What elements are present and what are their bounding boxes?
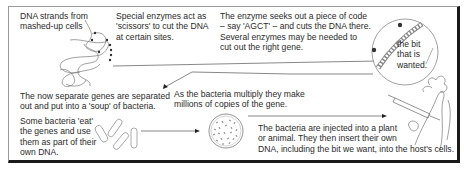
arrowhead-icon bbox=[382, 114, 387, 118]
label-bit-wanted: the bit that is wanted. bbox=[397, 39, 427, 70]
step-enzyme-seeks: The enzyme seeks out a piece of code – s… bbox=[220, 11, 371, 53]
step-genes-separated: The now separate genes are separated out… bbox=[20, 91, 170, 112]
step-bacteria-multiply: As the bacteria multiply they make milli… bbox=[174, 89, 305, 110]
step-dna-strands: DNA strands from mashed-up cells bbox=[20, 11, 88, 32]
petri-dish-illustration bbox=[209, 114, 243, 148]
step-enzymes-scissors: Special enzymes act as 'scissors' to cut… bbox=[116, 11, 209, 42]
arrow-to-soup bbox=[165, 72, 373, 87]
arrow-to-gene bbox=[113, 61, 380, 66]
enzyme-dots-icon bbox=[91, 32, 112, 61]
step-bacteria-injected: The bacteria are injected into a plant o… bbox=[258, 123, 454, 154]
bacteria-illustration bbox=[94, 118, 137, 151]
arrowhead-icon bbox=[163, 84, 168, 89]
arrowhead-icon bbox=[195, 129, 200, 133]
step-bacteria-eat: Some bacteria 'eat' the genes and use th… bbox=[20, 116, 96, 158]
